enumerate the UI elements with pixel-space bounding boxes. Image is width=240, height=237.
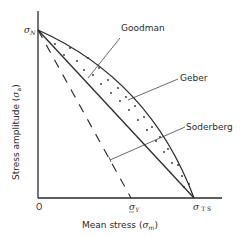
soderberg-label: Soderberg (186, 122, 233, 132)
x-axis-title: Mean stress (σm) (82, 220, 158, 231)
sigma-ts-label: σT S (193, 202, 211, 212)
soderberg-leader (110, 127, 185, 160)
goodman-leader (88, 38, 120, 78)
goodman-line (38, 30, 194, 198)
sigma-n-label: σN (24, 25, 36, 36)
geber-label: Geber (180, 73, 208, 83)
origin-label: O (36, 203, 42, 212)
dotted-band (54, 43, 190, 188)
geber-leader (128, 79, 178, 100)
y-axis-title: Stress amplitude (σa) (11, 84, 22, 180)
goodman-label: Goodman (121, 23, 165, 33)
fatigue-diagram: Goodman Geber Soderberg σN O σY σT S Mea… (0, 0, 240, 237)
sigma-y-label: σY (129, 202, 140, 213)
